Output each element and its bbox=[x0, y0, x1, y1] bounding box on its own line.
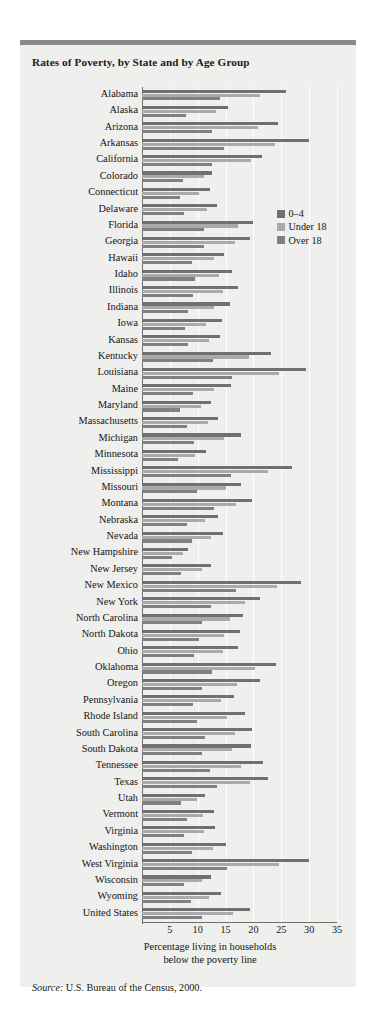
bar-row: Minnesota bbox=[142, 447, 357, 463]
bar-row: Connecticut bbox=[142, 185, 357, 201]
bar-2 bbox=[142, 736, 205, 739]
bar-2 bbox=[142, 147, 224, 150]
legend-label: Under 18 bbox=[289, 221, 327, 232]
bar-2 bbox=[142, 343, 188, 346]
bar-1 bbox=[142, 143, 275, 146]
bar-1 bbox=[142, 667, 255, 670]
category-label: Oregon bbox=[107, 676, 138, 689]
bar-row: Massachusetts bbox=[142, 414, 357, 430]
bar-0 bbox=[142, 679, 260, 682]
bar-row: Alabama bbox=[142, 87, 357, 103]
bar-row: Alaska bbox=[142, 103, 357, 119]
category-label: Alabama bbox=[101, 87, 138, 100]
bar-0 bbox=[142, 892, 221, 895]
bar-row: South Dakota bbox=[142, 742, 357, 758]
bar-2 bbox=[142, 769, 210, 772]
x-tick-label-15: 15 bbox=[220, 924, 230, 935]
bar-2 bbox=[142, 228, 204, 231]
bar-row: Illinois bbox=[142, 283, 357, 299]
bar-0 bbox=[142, 859, 309, 862]
bar-1 bbox=[142, 175, 204, 178]
legend-item: Under 18 bbox=[277, 221, 357, 233]
x-axis-caption-line-2: below the poverty line bbox=[80, 953, 340, 966]
bar-0 bbox=[142, 270, 232, 273]
bar-1 bbox=[142, 224, 238, 227]
bar-1 bbox=[142, 454, 195, 457]
bar-row: Iowa bbox=[142, 316, 357, 332]
category-label: Vermont bbox=[103, 807, 138, 820]
bar-row: South Carolina bbox=[142, 726, 357, 742]
legend-label: 0–4 bbox=[289, 208, 304, 219]
category-label: Tennessee bbox=[96, 758, 138, 771]
bar-1 bbox=[142, 879, 202, 882]
bar-row: New Hampshire bbox=[142, 545, 357, 561]
legend-swatch-icon bbox=[277, 210, 285, 218]
bar-2 bbox=[142, 310, 188, 313]
bar-1 bbox=[142, 94, 260, 97]
bar-row: Hawaii bbox=[142, 251, 357, 267]
bar-1 bbox=[142, 192, 199, 195]
bar-0 bbox=[142, 221, 253, 224]
bar-1 bbox=[142, 830, 204, 833]
bar-0 bbox=[142, 204, 217, 207]
category-label: Alaska bbox=[109, 103, 138, 116]
bar-2 bbox=[142, 261, 192, 264]
bar-row: New Mexico bbox=[142, 578, 357, 594]
bar-2 bbox=[142, 114, 186, 117]
bar-0 bbox=[142, 253, 224, 256]
bar-2 bbox=[142, 851, 192, 854]
bar-1 bbox=[142, 519, 205, 522]
bar-0 bbox=[142, 384, 231, 387]
bar-2 bbox=[142, 212, 184, 215]
bar-row: Indiana bbox=[142, 300, 357, 316]
bar-1 bbox=[142, 732, 235, 735]
bar-2 bbox=[142, 785, 217, 788]
bar-0 bbox=[142, 810, 214, 813]
category-label: Pennsylvania bbox=[83, 693, 138, 706]
category-label: Missouri bbox=[101, 480, 138, 493]
bar-row: Montana bbox=[142, 496, 357, 512]
x-tick-label-5: 5 bbox=[167, 924, 172, 935]
bar-1 bbox=[142, 110, 216, 113]
category-label: Ohio bbox=[117, 644, 138, 657]
bar-1 bbox=[142, 405, 201, 408]
category-label: Mississippi bbox=[91, 464, 138, 477]
category-label: Rhode Island bbox=[83, 709, 138, 722]
bar-2 bbox=[142, 376, 232, 379]
category-label: Idaho bbox=[115, 267, 138, 280]
bar-0 bbox=[142, 90, 286, 93]
bar-row: Oklahoma bbox=[142, 660, 357, 676]
bar-1 bbox=[142, 486, 226, 489]
bar-0 bbox=[142, 352, 271, 355]
category-label: Wyoming bbox=[97, 889, 138, 902]
bar-row: Arizona bbox=[142, 120, 357, 136]
bar-1 bbox=[142, 323, 206, 326]
bar-0 bbox=[142, 794, 205, 797]
bar-row: Ohio bbox=[142, 644, 357, 660]
bar-2 bbox=[142, 900, 191, 903]
bar-row: Michigan bbox=[142, 431, 357, 447]
bar-row: North Carolina bbox=[142, 611, 357, 627]
bar-2 bbox=[142, 97, 220, 100]
category-label: Colorado bbox=[100, 169, 138, 182]
bar-1 bbox=[142, 634, 224, 637]
bar-2 bbox=[142, 539, 192, 542]
bar-0 bbox=[142, 319, 222, 322]
bar-2 bbox=[142, 752, 202, 755]
source-label: Source: bbox=[32, 982, 63, 993]
bar-1 bbox=[142, 257, 214, 260]
bar-1 bbox=[142, 683, 237, 686]
bar-0 bbox=[142, 908, 250, 911]
source-text: U.S. Bureau of the Census, 2000. bbox=[63, 982, 202, 993]
bar-0 bbox=[142, 433, 241, 436]
bar-0 bbox=[142, 139, 309, 142]
bar-0 bbox=[142, 630, 240, 633]
poverty-chart-figure: Rates of Poverty, by State and by Age Gr… bbox=[20, 40, 356, 987]
category-label: Nebraska bbox=[99, 513, 138, 526]
bar-0 bbox=[142, 843, 226, 846]
bar-0 bbox=[142, 401, 211, 404]
bar-0 bbox=[142, 417, 218, 420]
bar-row: Utah bbox=[142, 791, 357, 807]
bar-2 bbox=[142, 720, 197, 723]
x-tick-label-30: 30 bbox=[304, 924, 314, 935]
